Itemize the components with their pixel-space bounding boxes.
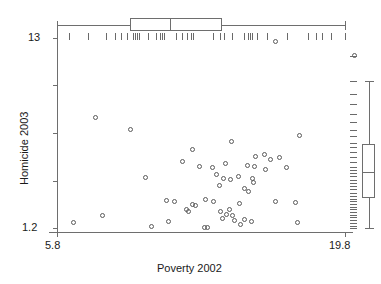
scatter-point bbox=[164, 198, 169, 203]
scatter-point bbox=[228, 177, 233, 182]
y-axis-tick bbox=[53, 133, 57, 134]
y-axis-line bbox=[57, 30, 58, 236]
x-tick-label-left: 5.8 bbox=[45, 239, 60, 251]
scatter-point bbox=[245, 163, 250, 168]
top-rug-tick bbox=[331, 33, 332, 40]
top-rug-tick bbox=[160, 33, 161, 40]
scatter-point bbox=[100, 213, 105, 218]
top-rug-tick bbox=[69, 33, 70, 40]
top-whisker-low bbox=[57, 25, 130, 26]
top-rug-tick bbox=[115, 33, 116, 40]
scatter-point bbox=[217, 183, 222, 188]
right-rug-tick bbox=[350, 196, 357, 197]
scatter-point bbox=[214, 172, 219, 177]
top-rug-tick bbox=[139, 33, 140, 40]
top-rug-tick bbox=[133, 33, 134, 40]
top-rug-tick bbox=[213, 33, 214, 40]
top-rug-tick bbox=[316, 33, 317, 40]
top-rug-tick bbox=[191, 33, 192, 40]
right-whisker-cap-high bbox=[365, 81, 374, 82]
right-whisker-low bbox=[369, 198, 370, 228]
right-rug-tick bbox=[350, 122, 357, 123]
scatter-point bbox=[295, 220, 300, 225]
right-rug-tick bbox=[350, 94, 357, 95]
scatter-point bbox=[238, 222, 243, 227]
top-rug-tick bbox=[137, 33, 138, 40]
scatter-point bbox=[262, 152, 267, 157]
scatter-point bbox=[128, 127, 133, 132]
right-rug-tick bbox=[350, 186, 357, 187]
scatter-point bbox=[149, 224, 154, 229]
y-axis-tick bbox=[53, 38, 57, 39]
top-rug-tick bbox=[162, 33, 163, 40]
top-box-median bbox=[170, 18, 171, 31]
right-rug-tick bbox=[350, 136, 357, 137]
scatter-point bbox=[203, 197, 208, 202]
right-rug-tick bbox=[350, 223, 357, 224]
top-rug-tick bbox=[267, 33, 268, 40]
x-axis-line bbox=[49, 232, 353, 233]
y-axis-tick bbox=[53, 228, 57, 229]
top-rug-outlier-marker bbox=[273, 39, 278, 44]
top-rug-tick bbox=[232, 33, 233, 40]
y-tick-label-top: 13 bbox=[28, 31, 40, 43]
scatter-point bbox=[211, 199, 216, 204]
x-axis-title: Poverty 2002 bbox=[157, 262, 222, 274]
top-rug-tick bbox=[164, 33, 165, 40]
right-rug-tick bbox=[350, 104, 357, 105]
top-rug-tick bbox=[308, 33, 309, 40]
scatter-point bbox=[210, 165, 215, 170]
top-rug-tick bbox=[135, 33, 136, 40]
top-rug-tick bbox=[148, 33, 149, 40]
right-rug-tick bbox=[350, 130, 357, 131]
top-rug-tick bbox=[224, 33, 225, 40]
top-rug-tick bbox=[220, 33, 221, 40]
top-rug-tick bbox=[187, 33, 188, 40]
scatter-point bbox=[197, 164, 202, 169]
right-whisker-cap-low bbox=[365, 228, 374, 229]
y-axis-tick bbox=[53, 181, 57, 182]
scatter-point bbox=[277, 155, 282, 160]
scatter-point bbox=[242, 217, 247, 222]
scatter-point bbox=[166, 219, 171, 224]
right-rug-tick bbox=[350, 204, 357, 205]
scatter-point bbox=[221, 176, 226, 181]
scatter-point bbox=[224, 212, 229, 217]
scatter-point bbox=[190, 147, 195, 152]
y-tick-label-bottom: 1.2 bbox=[22, 221, 37, 233]
scatter-point bbox=[237, 201, 242, 206]
right-rug-tick bbox=[350, 170, 357, 171]
right-rug-tick bbox=[350, 228, 357, 229]
top-rug-tick bbox=[193, 33, 194, 40]
right-rug-tick bbox=[350, 167, 357, 168]
top-rug-tick bbox=[287, 33, 288, 40]
scatter-point bbox=[273, 199, 278, 204]
top-whisker-high bbox=[222, 25, 345, 26]
top-rug-tick bbox=[176, 33, 177, 40]
scatter-point bbox=[246, 189, 251, 194]
scatter-point bbox=[268, 157, 273, 162]
scatter-point bbox=[223, 161, 228, 166]
top-rug-tick bbox=[257, 33, 258, 40]
right-rug-tick bbox=[350, 183, 357, 184]
right-rug-tick bbox=[350, 81, 357, 82]
scatter-point bbox=[180, 159, 185, 164]
chart-canvas: 13 1.2 5.8 19.8 Poverty 2002 Homicide 20… bbox=[0, 0, 381, 284]
scatter-point bbox=[249, 219, 254, 224]
x-axis-tick bbox=[57, 233, 58, 237]
right-rug-tick bbox=[350, 226, 357, 227]
y-axis-tick bbox=[53, 85, 57, 86]
scatter-point bbox=[205, 225, 210, 230]
right-rug-tick bbox=[350, 147, 357, 148]
scatter-point bbox=[227, 207, 232, 212]
top-rug-tick bbox=[252, 33, 253, 40]
scatter-point bbox=[251, 180, 256, 185]
right-rug-tick bbox=[350, 201, 357, 202]
scatter-point bbox=[186, 209, 191, 214]
top-rug-tick bbox=[248, 33, 249, 40]
right-box-median bbox=[362, 172, 375, 173]
right-rug-tick bbox=[350, 176, 357, 177]
top-rug-tick bbox=[88, 33, 89, 40]
scatter-point bbox=[232, 218, 237, 223]
scatter-point bbox=[143, 175, 148, 180]
